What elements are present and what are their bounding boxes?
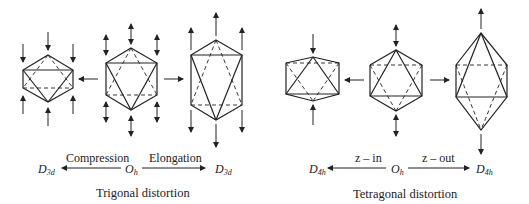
trigonal-right-symbol: D3d	[215, 163, 232, 177]
tetragonal-regular-octahedron	[370, 50, 422, 111]
symbol-letter: D	[215, 162, 224, 176]
symbol-subscript: 3d	[47, 168, 55, 177]
symbol-subscript: h	[400, 168, 404, 177]
tetragonal-title: Tetragonal distortion	[353, 188, 457, 201]
tetragonal-elongated-octahedron	[456, 33, 507, 130]
tetragonal-right-symbol: D4h	[476, 163, 493, 177]
tetragonal-center-symbol: Oh	[391, 163, 404, 177]
symbol-subscript: 3d	[224, 168, 232, 177]
symbol-subscript: h	[134, 168, 138, 177]
trigonal-left-symbol: D3d	[38, 163, 55, 177]
distortion-diagram	[0, 0, 529, 204]
tetragonal-compressed-octahedron	[286, 57, 339, 101]
compression-label: Compression	[66, 152, 129, 164]
trigonal-compressed-octahedron	[23, 55, 73, 102]
trigonal-regular-octahedron	[106, 48, 157, 110]
symbol-letter: O	[125, 162, 134, 176]
elongation-label: Elongation	[149, 152, 202, 164]
symbol-subscript: 4h	[318, 168, 326, 177]
tetragonal-left-symbol: D4h	[309, 163, 326, 177]
symbol-letter: D	[309, 162, 318, 176]
z-out-label: z – out	[422, 152, 455, 164]
trigonal-title: Trigonal distortion	[96, 187, 190, 200]
z-in-label: z – in	[355, 152, 382, 164]
symbol-letter: D	[38, 162, 47, 176]
symbol-subscript: 4h	[485, 168, 493, 177]
trigonal-center-symbol: Oh	[125, 163, 138, 177]
elongation-arrows	[191, 13, 242, 147]
symbol-letter: D	[476, 162, 485, 176]
symbol-letter: O	[391, 162, 400, 176]
trigonal-elongated-octahedron	[191, 40, 242, 120]
